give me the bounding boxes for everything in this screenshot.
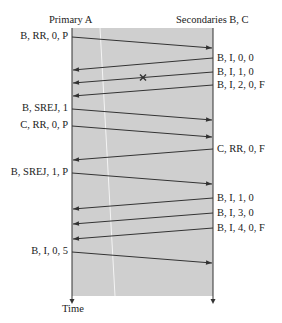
message-label: B, I, 3, 0 bbox=[217, 207, 254, 219]
message-label: B, I, 1, 0 bbox=[217, 66, 254, 78]
message-label: B, I, 1, 0 bbox=[217, 192, 254, 204]
message-label: C, RR, 0, P bbox=[20, 119, 68, 131]
message-label: B, I, 4, 0, F bbox=[217, 222, 265, 234]
message-label: B, I, 0, 0 bbox=[217, 52, 254, 64]
message-label: B, SREJ, 1 bbox=[22, 102, 68, 114]
primary-header: Primary A bbox=[49, 14, 92, 26]
message-label: C, RR, 0, F bbox=[217, 143, 265, 155]
message-label: B, SREJ, 1, P bbox=[11, 166, 68, 178]
secondaries-header: Secondaries B, C bbox=[176, 14, 249, 26]
time-label: Time bbox=[62, 303, 84, 315]
message-label: B, RR, 0, P bbox=[20, 30, 68, 42]
message-label: B, I, 2, 0, F bbox=[217, 79, 265, 91]
sequence-diagram bbox=[0, 0, 282, 323]
message-label: B, I, 0, 5 bbox=[31, 245, 68, 257]
secondary-time-arrow-icon bbox=[211, 299, 216, 304]
